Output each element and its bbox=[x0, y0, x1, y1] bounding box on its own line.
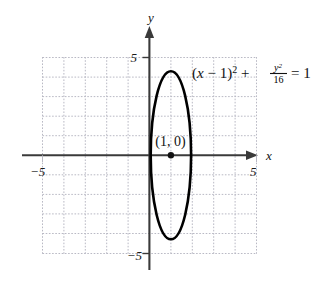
center-point-marker bbox=[168, 152, 174, 158]
tick-label-y-negative-5: −5 bbox=[127, 248, 143, 263]
equation-rhs: = 1 bbox=[291, 65, 311, 81]
tick-label-y-positive-5: 5 bbox=[131, 50, 138, 65]
x-axis-label: x bbox=[265, 148, 272, 163]
equation-equals: = bbox=[291, 65, 303, 81]
equation-fraction-numerator-exp: 2 bbox=[278, 62, 282, 70]
y-axis-label: y bbox=[146, 10, 154, 25]
equation-result: 1 bbox=[303, 65, 311, 81]
tick-label-x-negative-5: −5 bbox=[30, 164, 46, 179]
tick-label-x-positive-5: 5 bbox=[250, 164, 257, 179]
equation-minus: − bbox=[204, 65, 220, 81]
equation-fraction-denominator: 16 bbox=[274, 74, 284, 85]
equation-annotation: (x − 1)2 + y2 16 = 1 bbox=[192, 62, 311, 85]
graph-figure: y x 5 −5 −5 5 (1, 0) (x − 1)2 + y2 16 = … bbox=[0, 0, 331, 289]
y-axis-arrow bbox=[145, 26, 154, 38]
equation-one: 1 bbox=[220, 65, 228, 81]
equation-plus: + bbox=[237, 65, 249, 81]
center-point-label: (1, 0) bbox=[155, 134, 186, 150]
coordinate-plane-svg: y x 5 −5 −5 5 (1, 0) (x − 1)2 + y2 16 = … bbox=[0, 0, 331, 289]
equation-text: (x − 1)2 + bbox=[192, 64, 249, 82]
equation-fraction-numerator: y2 bbox=[273, 62, 282, 73]
